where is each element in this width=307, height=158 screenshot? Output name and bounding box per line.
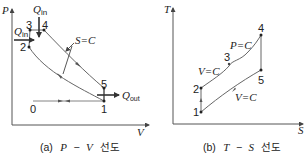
ts-point-3 (228, 63, 230, 65)
compression-arrow-icon (57, 73, 62, 79)
ts-label-4: 4 (258, 22, 264, 34)
compression-curve (29, 47, 104, 101)
ts-const-volume-top-label: V=C (198, 65, 220, 77)
const-volume-line (29, 30, 30, 47)
intake-arrow-icon (58, 100, 63, 103)
ts-caption: (b) T − S 선도 (203, 137, 281, 154)
pv-label-1: 1 (101, 103, 107, 115)
pv-label-2: 2 (20, 41, 26, 53)
pv-label-4: 4 (42, 19, 48, 31)
isentropic-pointer-upper (66, 43, 74, 51)
ts-label-3: 3 (224, 51, 230, 63)
isentropic-label: S=C (75, 34, 96, 46)
q-in-top-label: Qin (33, 3, 47, 17)
pv-label-0: 0 (30, 103, 36, 115)
ts-const-pressure-label: P=C (229, 39, 252, 51)
cycle-diagrams: P V 0 1 2 3 4 5 Qin (0, 0, 307, 158)
pv-caption: (a) P − V 선도 (40, 137, 120, 154)
ts-label-2: 2 (193, 83, 199, 95)
ts-label-1: 1 (193, 106, 199, 118)
v-axis-label: V (137, 126, 145, 138)
ts-point-1 (200, 111, 203, 114)
s-axis-label: S (298, 124, 304, 136)
pv-diagram: P V 0 1 2 3 4 5 Qin (1, 3, 149, 154)
ts-const-volume-bottom-label: V=C (235, 91, 257, 103)
ts-diagram: T S 1 2 3 4 5 P=C V=C V=C (b) T (164, 3, 304, 154)
exhaust-arrow-icon (65, 100, 70, 103)
ts-point-2 (200, 87, 203, 90)
p-axis-label: P (1, 4, 9, 16)
pv-point-2 (28, 46, 31, 49)
t-axis-label: T (164, 3, 171, 15)
ts-point-5 (260, 69, 263, 72)
q-out-label: Qout (122, 89, 140, 102)
ts-compression-arrow-icon (200, 98, 203, 102)
pv-label-5: 5 (101, 78, 107, 90)
ts-label-5: 5 (258, 74, 264, 86)
